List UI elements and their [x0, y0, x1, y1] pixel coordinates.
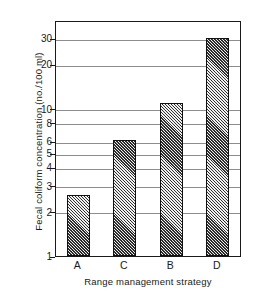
x-axis-tick-labels: ACBD — [0, 0, 254, 295]
x-tick-label-c: C — [109, 260, 139, 271]
x-tick-label-a: A — [62, 260, 92, 271]
x-tick-label-b: B — [155, 260, 185, 271]
x-tick-label-d: D — [202, 260, 232, 271]
figure: Fecal coliform concentration (no./100 ml… — [0, 0, 254, 295]
x-axis-title: Range management strategy — [55, 276, 241, 287]
